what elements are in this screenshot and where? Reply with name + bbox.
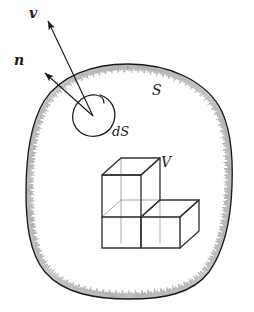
closed-surface-boundary: [26, 64, 232, 299]
surface-label: S: [152, 83, 162, 97]
velocity-vector-arrow: [48, 21, 93, 116]
vector-calculus-diagram: [0, 0, 254, 312]
velocity-vector-label: v: [29, 6, 37, 20]
normal-vector-label: n: [14, 53, 24, 67]
surface-element-loop: [73, 95, 115, 136]
surface-inner-hatching: [26, 64, 232, 299]
surface-outline-path: [26, 64, 232, 299]
vector-arrows: [45, 21, 93, 116]
figure-root: v n S dS V: [0, 0, 254, 312]
volume-label: V: [161, 155, 171, 169]
cube-visible-edges: [102, 158, 199, 248]
volume-cube-cluster: [102, 158, 199, 248]
surface-element-label: dS: [112, 125, 129, 138]
surface-element-path: [73, 95, 115, 136]
